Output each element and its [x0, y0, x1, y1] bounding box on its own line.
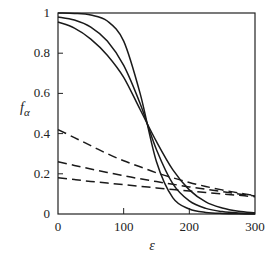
axis-ticks: 010020030000.20.40.60.81	[34, 5, 265, 234]
y-tick-label: 0.8	[34, 45, 50, 60]
line-chart: 010020030000.20.40.60.81 fα ε	[0, 0, 272, 254]
y-axis-label: fα	[20, 100, 30, 118]
x-tick-label: 100	[114, 219, 134, 234]
series-line-dashed-3	[58, 178, 255, 197]
y-tick-label: 0.6	[34, 85, 51, 100]
series-line-solid-1	[58, 13, 255, 214]
y-tick-label: 0.2	[34, 166, 50, 181]
y-tick-label: 0	[44, 206, 51, 221]
x-tick-label: 0	[55, 219, 62, 234]
y-tick-label: 1	[44, 5, 51, 20]
x-tick-label: 300	[245, 219, 265, 234]
y-tick-label: 0.4	[34, 126, 51, 141]
plot-border	[58, 13, 255, 214]
plot-frame	[58, 13, 255, 214]
series-line-solid-3	[58, 22, 255, 213]
series-line-solid-2	[58, 17, 255, 214]
series-layer	[58, 13, 255, 214]
x-tick-label: 200	[180, 219, 200, 234]
series-line-dashed-2	[58, 162, 255, 196]
x-axis-label: ε	[149, 238, 155, 253]
